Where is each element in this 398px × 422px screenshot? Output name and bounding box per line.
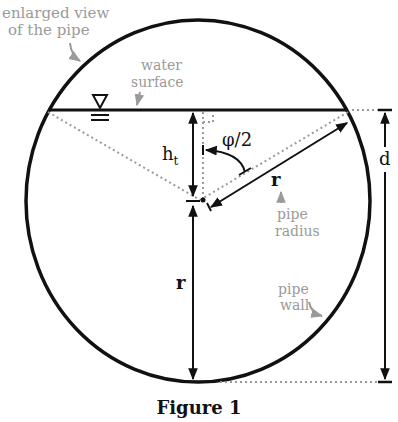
- water-surface-arrow: [137, 92, 140, 105]
- pipe-diagram: enlarged view of the pipe water surface …: [0, 0, 398, 422]
- pipe-wall-arrow: [309, 302, 322, 316]
- d-label: d: [379, 148, 391, 169]
- r-slanted-label: r: [271, 169, 281, 190]
- angle-arc: [206, 150, 245, 172]
- water-surface-label-2: surface: [131, 74, 184, 90]
- pipe-wall-label-2: wall: [280, 297, 310, 313]
- enlarged-view-arrow: [70, 43, 80, 61]
- enlarged-view-label-1: enlarged view: [2, 4, 109, 22]
- center-point: [201, 198, 206, 203]
- water-surface-label-1: water: [141, 57, 182, 73]
- pipe-wall-label-1: pipe: [278, 281, 309, 297]
- ht-label: ht: [162, 143, 179, 168]
- water-level-icon: [91, 95, 109, 120]
- pipe-radius-label-2: radius: [275, 223, 320, 239]
- angle-label: φ/2: [222, 129, 252, 150]
- enlarged-view-label-2: of the pipe: [8, 21, 90, 39]
- figure-caption: Figure 1: [156, 397, 241, 418]
- r-vertical-label: r: [176, 272, 186, 293]
- pipe-radius-label-1: pipe: [277, 206, 308, 222]
